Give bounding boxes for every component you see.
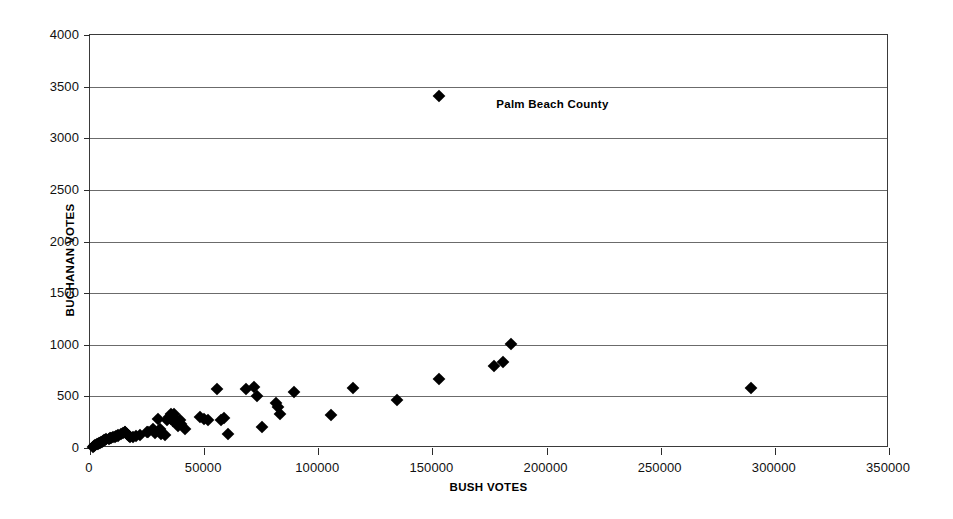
data-point <box>130 429 143 442</box>
gridline-y <box>90 242 887 243</box>
plot-area: Palm Beach County <box>89 34 888 447</box>
data-point <box>347 382 360 395</box>
data-point <box>109 430 122 443</box>
data-point <box>95 436 108 449</box>
data-point <box>103 432 116 445</box>
y-tick-label: 2000 <box>4 233 79 248</box>
y-tick-mark <box>84 35 90 36</box>
data-point <box>149 426 162 439</box>
data-point <box>172 420 185 433</box>
data-point <box>193 411 206 424</box>
data-point <box>170 414 183 427</box>
y-tick-label: 0 <box>4 440 79 455</box>
y-tick-label: 500 <box>4 388 79 403</box>
scatter-plot-figure: BUCHANAN VOTES BUSH VOTES 05001000150020… <box>0 0 953 519</box>
y-tick-mark <box>84 345 90 346</box>
data-point <box>164 407 177 420</box>
x-tick-mark <box>775 448 776 455</box>
y-tick-label: 1500 <box>4 285 79 300</box>
data-point <box>198 413 211 426</box>
data-point <box>114 428 127 441</box>
gridline-y <box>90 87 887 88</box>
y-tick-mark <box>84 87 90 88</box>
data-point <box>147 423 160 436</box>
data-point <box>273 407 286 420</box>
data-point <box>174 414 187 427</box>
data-point <box>166 415 179 428</box>
data-point <box>202 414 215 427</box>
x-tick-mark <box>547 448 548 455</box>
data-point <box>123 430 136 443</box>
y-tick-mark <box>84 138 90 139</box>
data-point <box>179 423 192 436</box>
data-point <box>391 394 404 407</box>
data-point <box>168 408 181 421</box>
y-tick-label: 3000 <box>4 130 79 145</box>
data-point <box>119 425 132 438</box>
y-tick-label: 4000 <box>4 27 79 42</box>
data-point <box>496 355 509 368</box>
x-tick-mark <box>318 448 319 455</box>
data-point <box>151 413 164 426</box>
data-point <box>111 429 124 442</box>
y-tick-label: 2500 <box>4 181 79 196</box>
data-point <box>175 418 188 431</box>
data-point <box>96 435 109 448</box>
x-tick-label: 200000 <box>524 460 568 475</box>
data-point <box>272 401 285 414</box>
data-point <box>106 431 119 444</box>
data-point <box>134 429 147 442</box>
y-tick-label: 3500 <box>4 78 79 93</box>
data-point <box>222 428 235 441</box>
data-point <box>109 430 122 443</box>
data-point <box>324 408 337 421</box>
y-tick-mark <box>84 293 90 294</box>
data-point <box>248 381 261 394</box>
data-point <box>433 90 446 103</box>
data-point <box>99 434 112 447</box>
y-tick-mark <box>84 396 90 397</box>
data-point <box>140 426 153 439</box>
data-point <box>93 437 106 450</box>
data-point <box>126 430 139 443</box>
data-point <box>161 414 174 427</box>
x-tick-mark <box>889 448 890 455</box>
gridline-y <box>90 396 887 397</box>
data-point <box>123 429 136 442</box>
x-axis-title: BUSH VOTES <box>89 481 888 493</box>
data-point <box>270 397 283 410</box>
gridline-y <box>90 345 887 346</box>
x-tick-label: 150000 <box>409 460 453 475</box>
x-tick-label: 250000 <box>638 460 682 475</box>
data-point <box>215 413 228 426</box>
x-tick-label: 0 <box>85 460 92 475</box>
data-point <box>96 435 109 448</box>
data-point <box>98 434 111 447</box>
x-tick-label: 300000 <box>752 460 796 475</box>
data-point <box>154 422 167 435</box>
data-point <box>163 410 176 423</box>
data-point <box>217 412 230 425</box>
data-point <box>91 438 104 451</box>
data-point <box>256 420 269 433</box>
gridline-y <box>90 190 887 191</box>
data-point <box>100 433 113 446</box>
gridline-y <box>90 293 887 294</box>
data-point <box>164 412 177 425</box>
data-point <box>288 386 301 399</box>
data-point <box>744 382 757 395</box>
x-tick-mark <box>204 448 205 455</box>
data-point <box>117 427 130 440</box>
data-point <box>158 429 171 442</box>
data-point <box>154 427 167 440</box>
x-tick-label: 100000 <box>295 460 339 475</box>
x-tick-mark <box>661 448 662 455</box>
x-tick-mark <box>432 448 433 455</box>
y-tick-mark <box>84 190 90 191</box>
annotation-label: Palm Beach County <box>496 98 608 110</box>
data-point <box>433 373 446 386</box>
data-point <box>120 427 133 440</box>
data-point <box>104 432 117 445</box>
data-point <box>111 429 124 442</box>
data-point <box>504 337 517 350</box>
